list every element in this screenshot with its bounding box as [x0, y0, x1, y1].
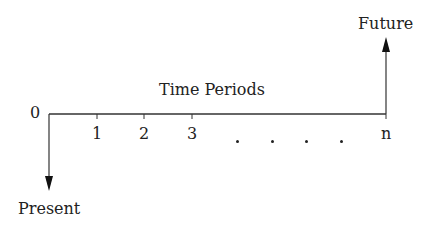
future-arrow-head-icon [382, 37, 390, 52]
future-label: Future [358, 14, 413, 33]
ellipsis-dot [340, 140, 343, 143]
present-label: Present [18, 199, 80, 218]
tick-label-2: 2 [139, 124, 149, 143]
ellipsis-dot [271, 140, 274, 143]
timeline-diagram: Future Time Periods 0 Present 1 2 3 n [0, 0, 431, 228]
ellipsis-dot [236, 140, 239, 143]
tick-label-1: 1 [92, 124, 102, 143]
timeline-svg [0, 0, 431, 228]
tick-label-3: 3 [187, 124, 197, 143]
axis-title: Time Periods [159, 80, 265, 99]
tick-label-n: n [381, 124, 391, 143]
ellipsis-dot [305, 140, 308, 143]
origin-label: 0 [30, 103, 40, 122]
present-arrow-head-icon [45, 176, 53, 191]
